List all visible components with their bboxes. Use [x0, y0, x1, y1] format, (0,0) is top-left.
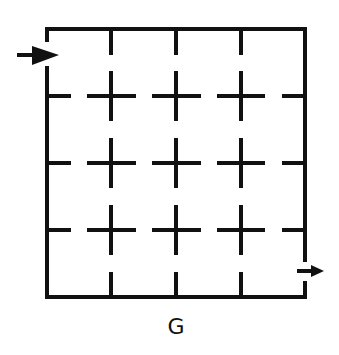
arrow-right-icon — [32, 46, 59, 65]
arrow-right-icon — [311, 265, 324, 277]
cross-row-2 — [87, 138, 265, 188]
top-ticks — [111, 29, 241, 55]
maze-figure: G — [0, 0, 339, 355]
bottom-ticks — [111, 272, 241, 297]
maze-diagram — [0, 0, 339, 355]
cross-row-1 — [87, 71, 265, 121]
right-ticks — [282, 96, 305, 230]
cross-row-3 — [87, 205, 265, 255]
figure-label: G — [0, 314, 339, 339]
left-ticks — [47, 96, 71, 230]
